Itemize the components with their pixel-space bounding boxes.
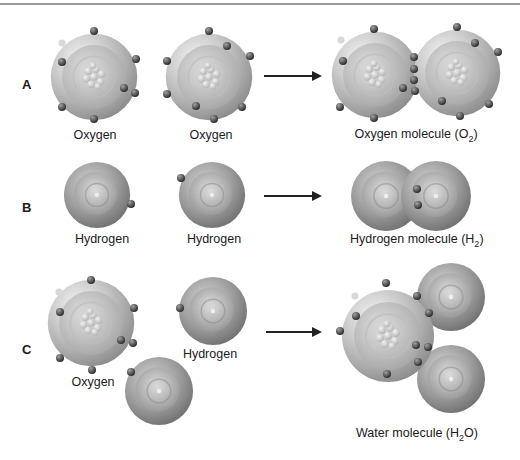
hydrogen-atom-b1 [64,162,135,228]
row-label-a: A [22,77,31,92]
hydrogen-atom-c1 [176,277,247,345]
water-molecule [336,263,485,413]
caption-hydrogen-b2: Hydrogen [184,232,244,246]
hydrogen-atom-c2 [125,357,193,425]
caption-oxygen-a1: Oxygen [70,128,120,142]
hydrogen-atom-b2 [177,162,245,228]
row-label-c: C [22,342,31,357]
reaction-arrow-a [264,75,320,77]
caption-hydrogen-c: Hydrogen [180,347,240,361]
caption-hydrogen-b1: Hydrogen [72,232,132,246]
caption-hydrogen-molecule: Hydrogen molecule (H2) [350,232,480,249]
oxygen-atom-a2 [163,27,254,123]
hydrogen-molecule [351,161,471,231]
caption-oxygen-a2: Oxygen [186,128,236,142]
atom-illustrations [0,0,520,460]
oxygen-atom-c [48,276,138,374]
oxygen-molecule [332,23,502,122]
row-label-b: B [22,200,31,215]
caption-oxygen-c: Oxygen [68,375,118,389]
caption-oxygen-molecule: Oxygen molecule (O2) [346,127,486,144]
oxygen-atom-a1 [51,27,140,123]
reaction-arrow-b [264,195,320,197]
caption-water-molecule: Water molecule (H2O) [356,426,476,443]
reaction-arrow-c [266,331,320,333]
